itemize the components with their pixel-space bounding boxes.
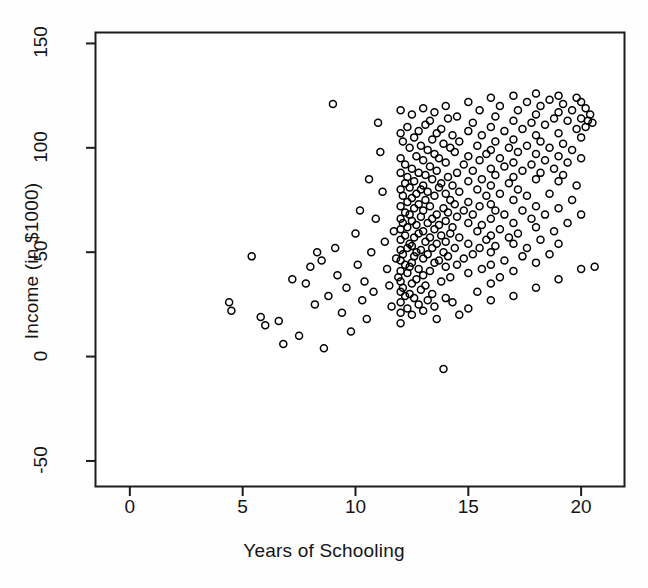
- x-tick-label: 10: [325, 496, 385, 518]
- x-axis-title: Years of Schooling: [0, 540, 648, 562]
- plot-frame: [96, 33, 625, 487]
- x-tick-label: 0: [100, 496, 160, 518]
- scatter-plot-figure: Income (in $1000) Years of Schooling 051…: [0, 0, 648, 588]
- y-tick-label: 50: [30, 224, 52, 278]
- y-tick-label: 100: [30, 120, 52, 174]
- y-tick-label: 0: [30, 329, 52, 383]
- x-tick-label: 15: [438, 496, 498, 518]
- x-tick-label: 5: [213, 496, 273, 518]
- y-tick-label: 150: [30, 15, 52, 69]
- x-tick-label: 20: [551, 496, 611, 518]
- y-tick-label: -50: [30, 433, 52, 487]
